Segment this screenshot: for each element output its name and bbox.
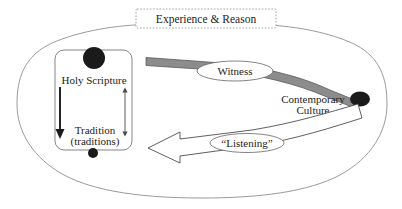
flow-listening[interactable]: “Listening” (148, 104, 362, 163)
bidirectional-arrow-head-up-icon (122, 88, 127, 93)
listening-label: “Listening” (221, 137, 272, 149)
diagram-canvas: Experience & Reason Holy Scripture Tradi… (0, 0, 402, 209)
contemporary-culture-circle-icon (350, 92, 370, 107)
connector-scripture-tradition-bidirectional (122, 88, 127, 137)
witness-label: Witness (218, 65, 253, 77)
tradition-circle-icon (88, 148, 98, 158)
experience-reason-box: Experience & Reason (136, 9, 276, 28)
scripture-to-tradition-arrowhead-icon (56, 129, 65, 139)
experience-reason-label: Experience & Reason (156, 13, 257, 26)
holy-scripture-label: Holy Scripture (61, 74, 126, 86)
bidirectional-arrow-head-down-icon (122, 132, 127, 137)
tradition-label-line2: (traditions) (71, 135, 120, 148)
theology-method-diagram: Experience & Reason Holy Scripture Tradi… (0, 0, 402, 209)
connector-scripture-to-tradition (56, 87, 65, 139)
holy-scripture-circle-icon (83, 47, 105, 69)
node-holy-scripture[interactable]: Holy Scripture (61, 47, 126, 86)
node-tradition[interactable]: Tradition (traditions) (71, 124, 120, 158)
